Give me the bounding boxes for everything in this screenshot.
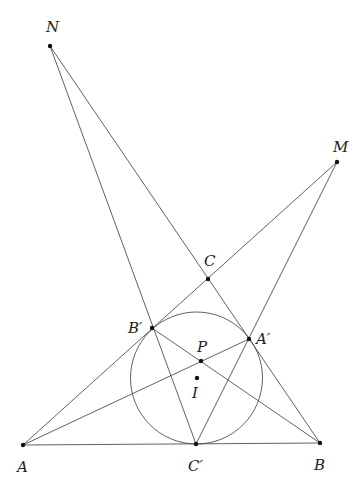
segments-group — [23, 46, 337, 445]
point-i — [195, 376, 199, 380]
points-group — [21, 44, 339, 447]
segment-a-b — [23, 443, 320, 445]
label-cp: C′ — [188, 457, 203, 475]
point-ap — [247, 337, 251, 341]
segment-n-cprime — [50, 46, 196, 444]
label-m: M — [332, 138, 349, 156]
point-a — [21, 443, 25, 447]
label-n: N — [45, 18, 60, 36]
point-c — [206, 277, 210, 281]
point-p — [199, 359, 203, 363]
point-n — [48, 44, 52, 48]
label-a: A — [15, 458, 28, 476]
geometry-diagram: NMCB′A′PIAC′B — [0, 0, 362, 494]
label-p: P — [196, 338, 208, 356]
label-i: I — [191, 384, 199, 402]
label-c: C — [204, 252, 216, 270]
point-m — [335, 160, 339, 164]
point-bp — [150, 326, 154, 330]
segment-n-b — [50, 46, 320, 443]
segment-m-a — [23, 162, 337, 445]
point-cp — [194, 442, 198, 446]
segment-m-cprime — [196, 162, 337, 444]
label-bp: B′ — [127, 319, 143, 337]
label-b: B — [313, 456, 325, 474]
point-b — [318, 441, 322, 445]
segment-a-aprime — [23, 339, 249, 445]
label-ap: A′ — [254, 330, 271, 348]
